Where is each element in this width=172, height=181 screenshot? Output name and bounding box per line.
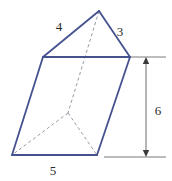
- edge-right-lateral: [97, 57, 130, 155]
- edge-top-right-slant: [99, 11, 130, 57]
- label-edge-3: 3: [117, 25, 124, 38]
- hidden-edge-back-to-bottom-right: [68, 113, 97, 155]
- edge-left-lateral: [12, 57, 43, 155]
- label-height-6: 6: [155, 104, 162, 117]
- label-edge-4: 4: [56, 20, 63, 33]
- hidden-edge-back-to-bottom-left: [12, 113, 68, 155]
- prism-drawing: [0, 0, 172, 181]
- dimension-arrowhead-down-icon: [143, 150, 149, 157]
- edge-top-left-slant: [43, 11, 99, 57]
- visible-edges-group: [12, 11, 130, 155]
- hidden-edge-apex-to-back-vertex: [68, 11, 99, 113]
- triangular-prism-figure: 4 3 5 6: [0, 0, 172, 181]
- dimension-arrowhead-up-icon: [143, 57, 149, 64]
- label-edge-5: 5: [50, 164, 57, 177]
